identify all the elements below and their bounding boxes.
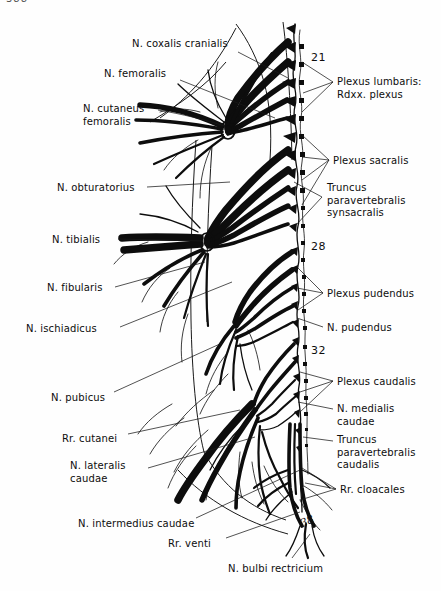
label-n-bulbi-rectricium: N. bulbi rectricium [228,563,323,576]
label-plexus-lumbaris: Plexus lumbaris: Rdxx. plexus [337,76,422,101]
label-plexus-caudalis: Plexus caudalis [337,376,416,389]
label-n-tibialis: N. tibialis [52,234,100,247]
label-truncus-paravertebralis-caudalis: Truncus paravertebralis caudalis [337,434,416,472]
label-n-medialis-caudae: N. medialis caudae [337,403,394,428]
label-n-intermedius-caudae: N. intermedius caudae [78,518,194,531]
plexus-caudalis-group [138,344,298,514]
label-n-pubicus: N. pubicus [51,392,105,405]
label-n-obturatorius: N. obturatorius [57,182,135,195]
segment-number-28: 28 [311,240,326,253]
label-n-cutaneus-femoralis: N. cutaneus femoralis [83,103,144,128]
label-n-pudendus: N. pudendus [327,322,392,335]
plexus-lumbaris-group [136,42,288,198]
label-n-lateralis-caudae: N. lateralis caudae [70,460,126,485]
label-n-femoralis: N. femoralis [104,68,166,81]
segment-number-21: 21 [311,51,326,64]
label-n-fibularis: N. fibularis [47,282,103,295]
plexus-pudendus-group [206,252,293,394]
label-n-ischiadicus: N. ischiadicus [26,323,97,336]
segment-number-32: 32 [311,344,326,357]
label-rr-venti: Rr. venti [168,538,211,551]
label-truncus-paravertebralis-synsacralis: Truncus paravertebralis synsacralis [327,182,406,220]
figure-page: 388 .nv { fill:none; stroke:#0d0d0d; str… [0,0,441,591]
label-plexus-pudendus: Plexus pudendus [327,288,414,301]
label-rr-cutanei: Rr. cutanei [62,433,117,446]
label-rr-cloacales: Rr. cloacales [340,484,405,497]
label-plexus-sacralis: Plexus sacralis [333,155,409,168]
label-n-coxalis-cranialis: N. coxalis cranialis [132,38,228,51]
